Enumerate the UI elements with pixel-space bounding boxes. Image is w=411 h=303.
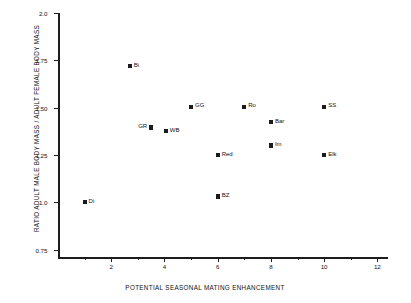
x-tick-minor [85,257,86,260]
data-point-label: SS [328,102,336,108]
data-point-marker [128,64,132,68]
data-point-marker [322,105,326,109]
data-point-label: GR [138,123,147,129]
data-point-label: Im [275,141,282,147]
y-tick-label: 1.50 [35,104,47,111]
data-point-label: GG [195,102,204,108]
x-tick-minor [191,257,192,260]
data-point-label: Elk [328,151,336,157]
x-tick-minor [351,257,352,260]
plot-area: 0.751.01.251.501.752.0 24681012 DiBiGRWB… [58,13,388,259]
x-tick-minor [298,257,299,260]
x-tick [111,257,112,262]
y-tick-label: 0.75 [35,246,47,253]
y-tick-label: 2.0 [39,10,48,17]
data-point-marker [216,153,220,157]
x-tick [377,257,378,262]
data-point-marker [83,200,87,204]
y-tick: 1.50 [54,108,59,109]
x-tick-label: 4 [163,263,166,270]
x-tick-minor [244,257,245,260]
y-tick: 2.0 [54,13,59,14]
x-tick [324,257,325,262]
x-tick-label: 12 [374,263,381,270]
x-tick-label: 8 [269,263,272,270]
x-tick [164,257,165,262]
data-point-marker [269,143,273,147]
data-point-label: Red [222,151,233,157]
data-point-marker [149,125,153,129]
data-point-marker [322,153,326,157]
data-point-label: Bi [134,62,139,68]
y-tick: 1.25 [54,155,59,156]
x-tick-label: 2 [109,263,112,270]
x-tick-label: 10 [321,263,328,270]
data-point-marker [242,105,246,109]
x-tick-minor [138,257,139,260]
y-axis-title: RATIO ADULT MALE BODY MASS / ADULT FEMAL… [33,14,40,244]
data-point-label: Ro [248,102,256,108]
x-tick-label: 6 [216,263,219,270]
scatter-plot-figure: RATIO ADULT MALE BODY MASS / ADULT FEMAL… [0,0,411,303]
data-point-label: Bar [275,118,284,124]
y-tick-label: 1.75 [35,57,47,64]
x-tick [218,257,219,262]
x-tick [271,257,272,262]
data-point-label: BZ [222,192,230,198]
data-point-marker [216,194,220,198]
y-tick: 1.75 [54,60,59,61]
data-point-marker [269,120,273,124]
x-axis-line [58,257,388,259]
y-tick-label: 1.0 [39,199,48,206]
data-point-label: WB [170,127,180,133]
data-point-label: Di [89,198,95,204]
data-point-marker [189,105,193,109]
y-axis-line [58,13,60,259]
data-point-marker [164,129,168,133]
y-tick: 0.75 [54,250,59,251]
x-axis-title: POTENTIAL SEASONAL MATING ENHANCEMENT [60,284,350,291]
y-tick: 1.0 [54,202,59,203]
y-tick-label: 1.25 [35,151,47,158]
